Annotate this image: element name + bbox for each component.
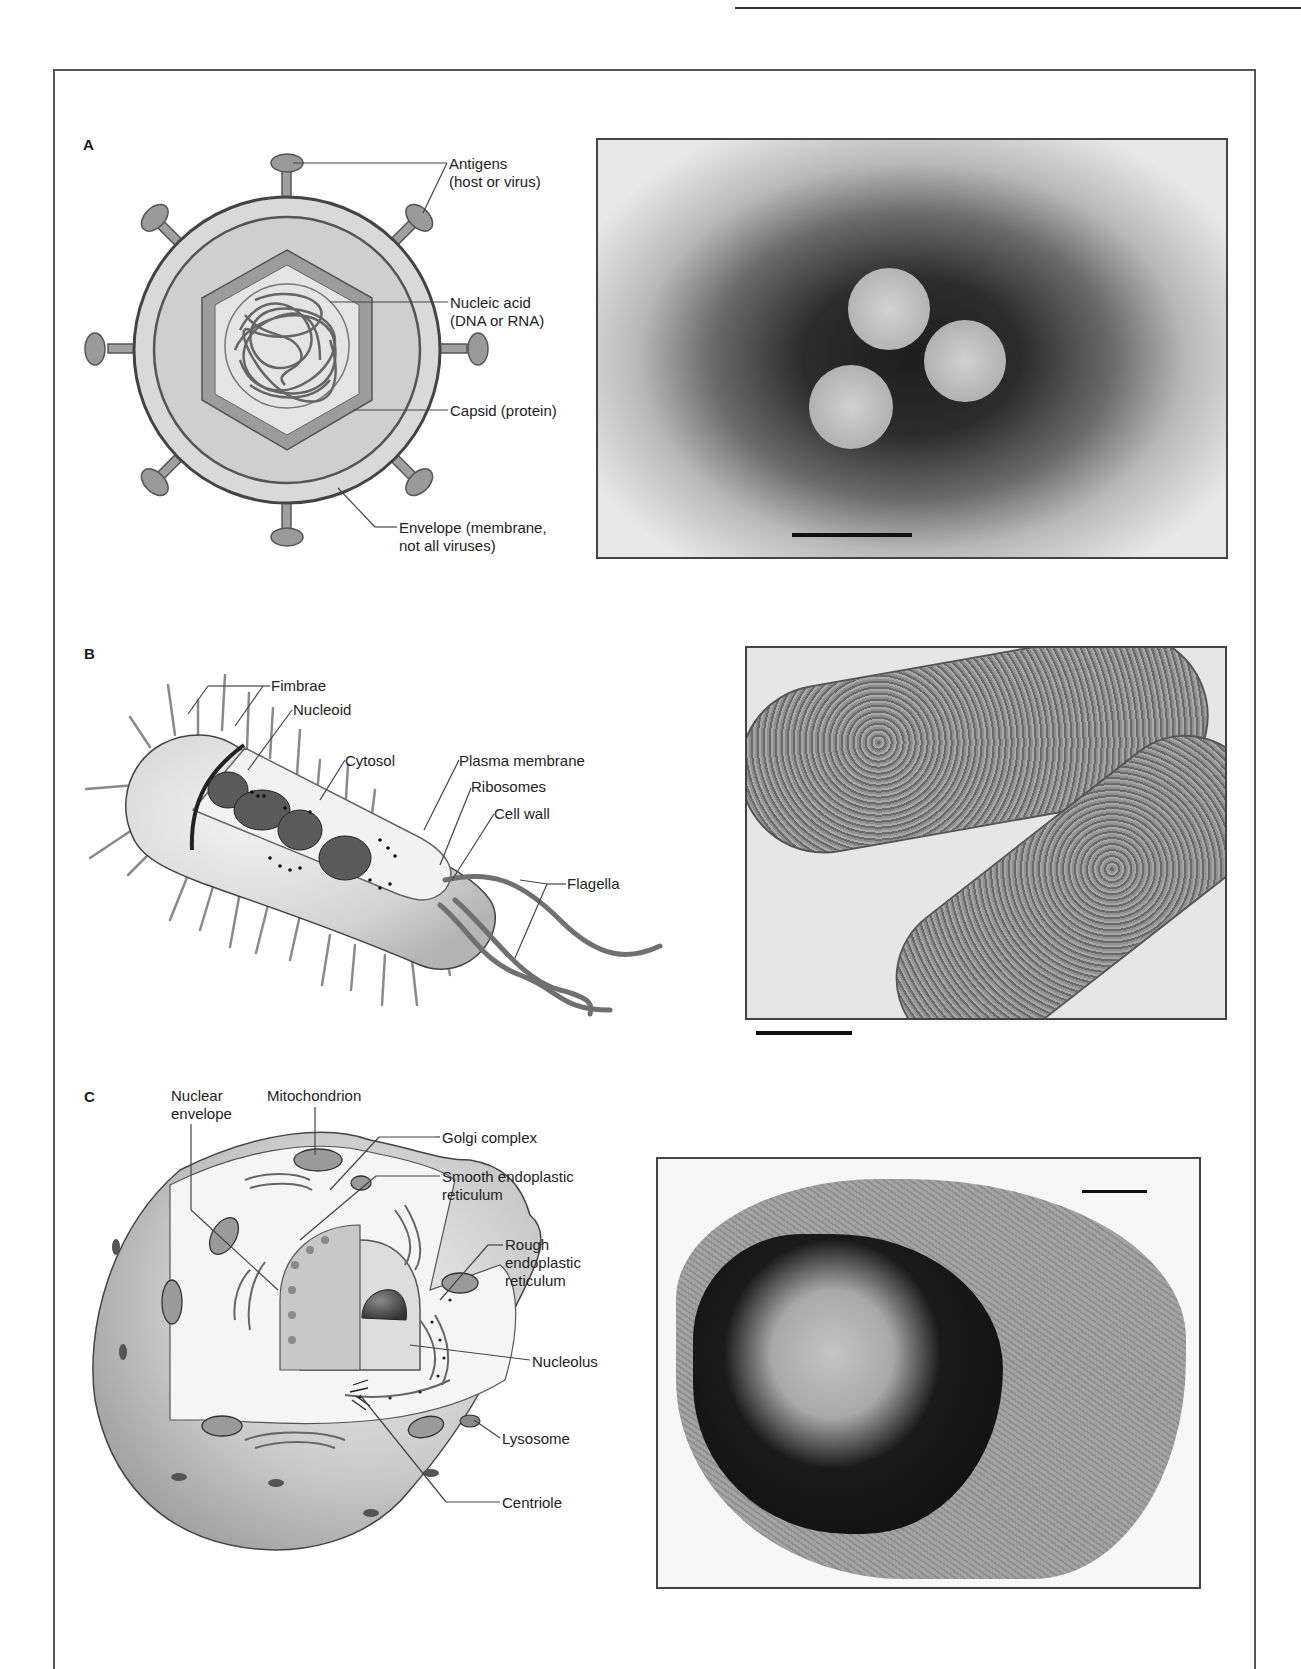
- cell-micrograph: [656, 1157, 1201, 1589]
- callout-golgi-complex: Golgi complex: [442, 1129, 537, 1147]
- lysosome-shape: [460, 1415, 480, 1427]
- callout-centriole: Centriole: [502, 1494, 562, 1512]
- callout-lysosome: Lysosome: [502, 1430, 570, 1448]
- callout-rough-er: Rough endoplastic reticulum: [505, 1236, 581, 1290]
- callout-nuclear-envelope: Nuclear envelope: [171, 1087, 232, 1123]
- scale-bar: [1082, 1190, 1147, 1193]
- cell-nucleus: [693, 1234, 1003, 1534]
- callout-smooth-er: Smooth endoplastic reticulum: [442, 1168, 574, 1204]
- callout-mitochondrion: Mitochondrion: [267, 1087, 361, 1105]
- callout-nucleolus: Nucleolus: [532, 1353, 598, 1371]
